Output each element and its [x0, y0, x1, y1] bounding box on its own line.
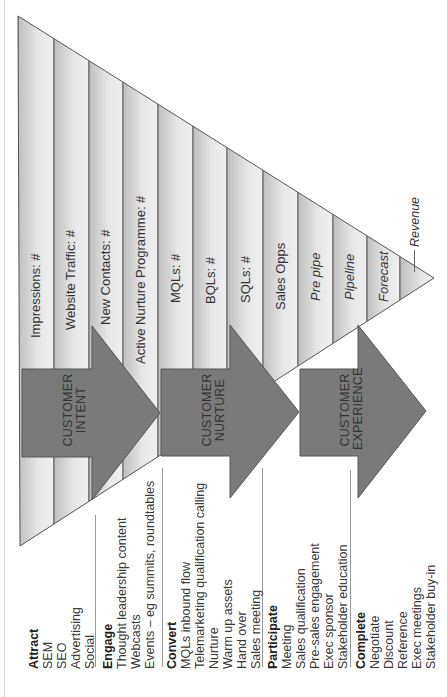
group-item: SEM [41, 607, 55, 669]
group-title: Attract [27, 607, 41, 669]
group-title: Convert [165, 483, 179, 669]
group-item: Hand over [235, 483, 249, 669]
group-item: Exec sponsor [322, 543, 336, 669]
revenue-label: Revenue [408, 197, 422, 247]
group-item: Stakeholder education [336, 543, 350, 669]
group-item: MQLs inbound flow [179, 483, 193, 669]
group-item: SEO [55, 607, 69, 669]
stage-label-bqls: BQLs: # [204, 257, 217, 304]
group-item: Discount [382, 565, 396, 669]
group-title: Participate [266, 543, 280, 669]
group-item: Events – eg summits, roundtables [143, 481, 157, 669]
stage-label-website-traffic: Website Traffic: # [64, 230, 77, 330]
arrow-label-line2: INTENT [75, 370, 88, 450]
stage-label-mqls: MQLs: # [169, 254, 182, 303]
stage-label-active-nurture: Active Nurture Programme: # [134, 196, 147, 364]
group-participate: Participate Meeting Sales qualification … [266, 543, 350, 669]
stage-label-new-contacts: New Contacts: # [99, 230, 112, 325]
arrow-label-experience: CUSTOMER EXPERIENCE [339, 370, 365, 450]
stage-label-pre-pipe: Pre pipe [309, 253, 322, 301]
group-item: Exec meetings [410, 565, 424, 669]
arrow-label-line2: EXPERIENCE [352, 370, 365, 450]
arrow-label-nurture: CUSTOMER NURTURE [201, 370, 227, 450]
group-item: Sales qualification [294, 543, 308, 669]
group-item: Warm up assets [221, 483, 235, 669]
stage-label-forecast: Forecast [377, 251, 390, 302]
group-item: Pre-sales engagement [308, 543, 322, 669]
group-attract: Attract SEM SEO Advertising Social [27, 607, 97, 669]
group-title: Complete [354, 565, 368, 669]
group-item: Nurture [207, 483, 221, 669]
group-convert: Convert MQLs inbound flow Telemarketing … [165, 483, 263, 669]
group-item: Meeting [280, 543, 294, 669]
group-engage: Engage Thought leadership content Webcas… [101, 481, 157, 669]
group-item: Negotiate [368, 565, 382, 669]
group-separator [162, 468, 163, 667]
group-item: Telemarketing qualification calling [193, 483, 207, 669]
stage-label-sqls: SQLs: # [239, 256, 252, 303]
stage-label-sales-opps: Sales Opps [274, 243, 287, 310]
group-title: Engage [101, 481, 115, 669]
arrow-label-line2: NURTURE [214, 370, 227, 450]
group-complete: Complete Negotiate Discount Reference Ex… [354, 565, 438, 669]
funnel-strip [400, 0, 440, 600]
arrow-label-intent: CUSTOMER INTENT [62, 370, 88, 450]
group-item: Advertising [69, 607, 83, 669]
group-separator [350, 470, 351, 667]
group-item: Reference [396, 565, 410, 669]
group-item: Social [83, 607, 97, 669]
group-item: Stakeholder buy-in [424, 565, 438, 669]
stage-label-impressions: Impressions: # [29, 253, 42, 338]
group-item: Webcasts [129, 481, 143, 669]
group-item: Thought leadership content [115, 481, 129, 669]
revenue-dash [414, 250, 415, 272]
stage-label-pipeline: Pipeline [343, 254, 356, 300]
group-item: Sales meeting [249, 483, 263, 669]
